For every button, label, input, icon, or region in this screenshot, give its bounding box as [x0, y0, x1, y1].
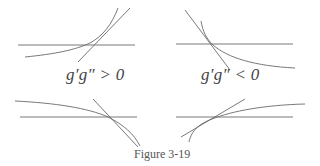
- panel-top-left: [18, 8, 135, 62]
- curve: [25, 8, 118, 57]
- panel-bottom-left: [15, 99, 140, 147]
- condition-label-negative: g′g″ < 0: [201, 65, 260, 85]
- panel-top-right: [176, 10, 295, 70]
- figure-diagram: [0, 0, 320, 166]
- curve: [201, 21, 295, 68]
- tangent-line: [93, 99, 138, 147]
- condition-label-positive: g′g″ > 0: [66, 65, 125, 85]
- tangent-line: [78, 8, 130, 62]
- curve: [189, 104, 305, 142]
- curve: [15, 101, 140, 146]
- figure-caption: Figure 3-19: [134, 147, 190, 162]
- tangent-line: [185, 10, 230, 70]
- tangent-line: [181, 99, 245, 137]
- panel-bottom-right: [176, 99, 305, 142]
